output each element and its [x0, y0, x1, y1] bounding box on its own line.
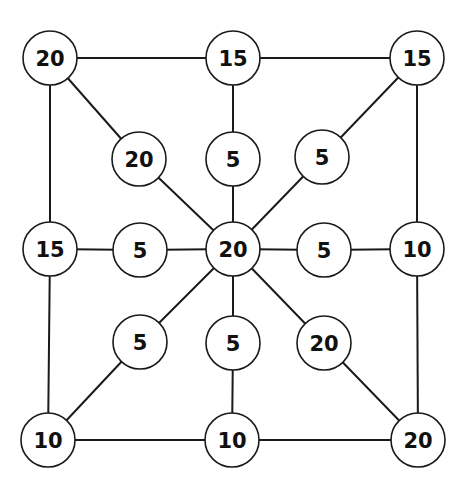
node-il_mid: 5 [113, 223, 167, 277]
node-ir_low: 20 [297, 316, 351, 370]
node-label: 10 [217, 429, 246, 453]
node-br: 20 [391, 413, 445, 467]
node-label: 20 [309, 332, 338, 356]
node-bl: 10 [21, 413, 75, 467]
node-ir_up: 5 [295, 130, 349, 184]
node-label: 5 [226, 332, 241, 356]
node-tm: 15 [206, 31, 260, 85]
node-label: 5 [133, 331, 148, 355]
node-ml: 15 [23, 222, 77, 276]
node-label: 15 [35, 238, 64, 262]
node-tl: 20 [23, 31, 77, 85]
node-label: 5 [317, 239, 332, 263]
node-label: 20 [403, 429, 432, 453]
node-il_low: 5 [113, 315, 167, 369]
node-label: 20 [218, 238, 247, 262]
node-il_up: 20 [112, 132, 166, 186]
node-center: 20 [206, 222, 260, 276]
node-label: 5 [133, 239, 148, 263]
node-ir_mid: 5 [297, 223, 351, 277]
node-label: 20 [124, 148, 153, 172]
node-im_low: 5 [206, 316, 260, 370]
edge-mr-br [417, 249, 418, 440]
node-label: 20 [35, 47, 64, 71]
number-grid-diagram: 2015152055155205105520101020 [0, 0, 469, 492]
edge-ml-bl [48, 249, 50, 440]
node-label: 15 [218, 47, 247, 71]
node-mr: 10 [390, 222, 444, 276]
node-label: 5 [226, 148, 241, 172]
node-tr: 15 [390, 31, 444, 85]
node-label: 5 [315, 146, 330, 170]
node-im_up: 5 [206, 132, 260, 186]
node-bm: 10 [205, 413, 259, 467]
node-label: 10 [33, 429, 62, 453]
node-label: 15 [402, 47, 431, 71]
node-label: 10 [402, 238, 431, 262]
